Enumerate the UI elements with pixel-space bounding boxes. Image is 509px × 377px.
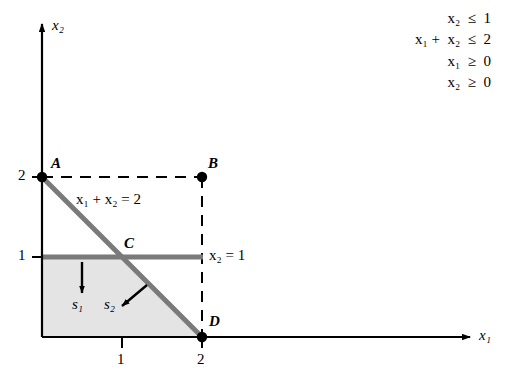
- vertex-point-a: [37, 172, 47, 182]
- y-tick-label-2: 2: [18, 168, 26, 183]
- horizontal-line-label: x₂ = 1: [209, 248, 245, 263]
- vertex-label-a: A: [51, 156, 61, 171]
- x-tick-label-2: 2: [197, 352, 205, 367]
- slack-label-s1: s₁: [72, 297, 83, 312]
- constraint-row-2: x₁ + x₂ ≤ 2: [415, 29, 491, 50]
- constraint-row-4: x₂ ≥ 0: [415, 72, 491, 93]
- x-tick-label-1: 1: [117, 352, 125, 367]
- vertex-label-c: C: [124, 236, 134, 251]
- feasible-region-fill: [42, 257, 202, 337]
- vertex-point-b: [197, 172, 207, 182]
- diagonal-line-label: x₁ + x₂ = 2: [76, 192, 141, 207]
- y-axis-label: x₂: [52, 18, 64, 33]
- vertex-label-d: D: [209, 314, 220, 329]
- vertex-point-d: [197, 332, 207, 342]
- feasible-region-figure: x₂ x₁ 2 1 1 2 A B C D x₁ + x₂ = 2 x₂ = 1…: [0, 0, 509, 377]
- x-axis-label: x₁: [479, 328, 491, 343]
- constraint-row-3: x₁ ≥ 0: [415, 51, 491, 72]
- vertex-label-b: B: [208, 156, 218, 171]
- slack-label-s2: s₂: [104, 297, 115, 312]
- constraint-row-1: x₂ ≤ 1: [415, 8, 491, 29]
- constraint-system: x₂ ≤ 1 x₁ + x₂ ≤ 2 x₁ ≥ 0 x₂ ≥ 0: [415, 8, 491, 93]
- y-tick-label-1: 1: [18, 248, 26, 263]
